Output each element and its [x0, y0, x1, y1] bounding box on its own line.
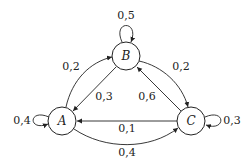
edge-c-to-b: [137, 67, 181, 111]
node-c-label: C: [186, 114, 195, 128]
node-a-label: A: [57, 114, 67, 128]
label-c-to-c: 0,3: [223, 114, 241, 127]
label-c-to-a: 0,1: [118, 122, 136, 135]
edge-a-to-a: [33, 115, 49, 126]
node-b-label: B: [121, 49, 131, 63]
label-b-to-a: 0,3: [95, 90, 113, 103]
label-a-to-c: 0,4: [118, 146, 136, 159]
label-c-to-b: 0,6: [138, 90, 156, 103]
markov-chain-diagram: B A C 0,5 0,4 0,3 0,2 0,2 0,3 0,6 0,1 0,…: [0, 0, 250, 164]
node-a: A: [48, 107, 76, 135]
node-b: B: [112, 42, 140, 70]
edge-b-to-a: [73, 67, 116, 111]
label-a-to-a: 0,4: [13, 114, 31, 127]
label-a-to-b: 0,2: [62, 60, 80, 73]
edge-b-to-b: [120, 26, 133, 43]
node-c: C: [177, 107, 205, 135]
label-b-to-b: 0,5: [117, 9, 135, 22]
label-b-to-c: 0,2: [172, 60, 190, 73]
edge-c-to-c: [205, 115, 221, 126]
